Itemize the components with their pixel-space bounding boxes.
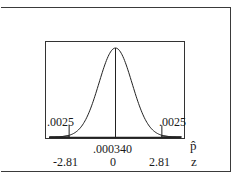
z-tick-center: 0 <box>110 156 116 168</box>
center-phat-label: .000340 <box>93 143 132 155</box>
z-tick-left: -2.81 <box>53 156 78 168</box>
normal-curve-plot <box>0 0 243 184</box>
phat-axis-symbol: p̂ <box>190 140 197 152</box>
z-tick-right: 2.81 <box>149 156 170 168</box>
left-tail-label: .0025 <box>47 116 74 128</box>
right-tail-label: .0025 <box>159 116 186 128</box>
z-axis-symbol: z <box>191 156 197 168</box>
